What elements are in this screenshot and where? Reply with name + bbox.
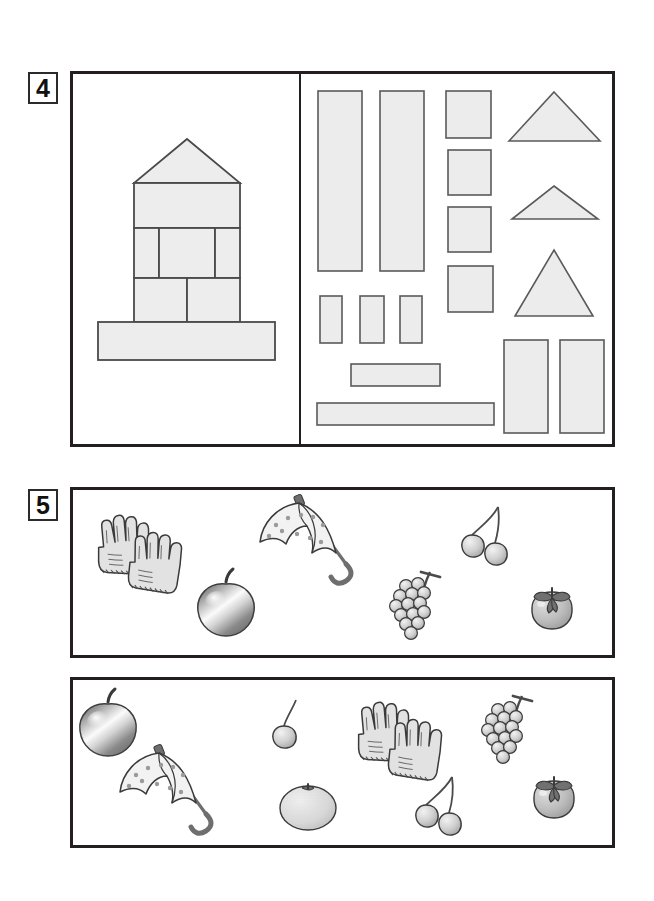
exercise-5-row-bottom-frame [70,677,615,848]
exercise-number-4-label: 4 [36,76,50,101]
exercise-number-badge-4: 4 [28,72,58,104]
exercise-5-row-top-frame [70,487,615,658]
worksheet-page: 4 5 [0,0,654,901]
exercise-4-frame [70,71,615,447]
exercise-number-badge-5: 5 [28,489,58,521]
exercise-4-panel-divider [299,71,301,447]
exercise-number-5-label: 5 [36,493,50,518]
